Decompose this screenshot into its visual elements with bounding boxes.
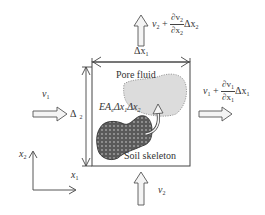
height-dimension-label: Δ2 — [70, 109, 82, 120]
axis-x1-label: x1 — [71, 170, 78, 181]
exchange-term-label: EAeΔx1Δx2 — [99, 102, 141, 113]
top-flow-label: v2 + ∂v2∂x2Δx2 — [152, 13, 198, 36]
pore-fluid-label: Pore fluid — [116, 70, 156, 80]
left-flow-label: v1 — [42, 89, 49, 100]
left-inflow-arrow — [33, 107, 67, 121]
bottom-flow-label: v2 — [158, 185, 165, 196]
coordinate-axes — [29, 151, 76, 194]
right-flow-label: v1 + ∂v1∂x1Δx1 — [203, 80, 249, 103]
width-dimension-arrow — [92, 57, 190, 67]
axis-x2-label: x2 — [19, 149, 26, 160]
bottom-inflow-arrow — [134, 172, 148, 205]
height-dimension-arrow — [82, 67, 92, 166]
top-outflow-arrow — [134, 15, 148, 46]
width-dimension-label: Δx1 — [134, 46, 148, 57]
soil-skeleton-label: Soil skeleton — [124, 151, 176, 161]
right-outflow-arrow — [199, 107, 232, 121]
